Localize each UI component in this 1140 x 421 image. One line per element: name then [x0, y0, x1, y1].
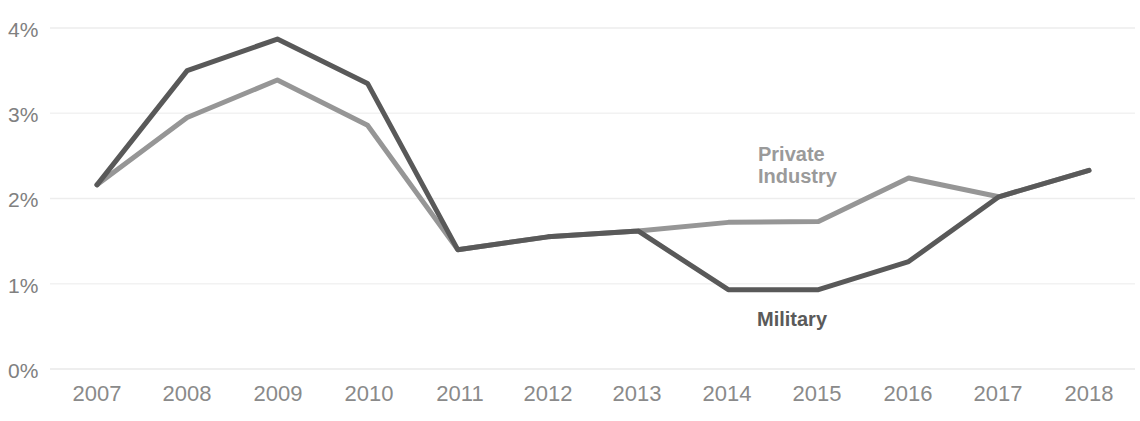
x-tick-label-2018: 2018 [1065, 383, 1114, 405]
series-line-private-industry [97, 80, 1089, 250]
y-tick-label-3pct: 3% [8, 104, 38, 125]
gridlines [50, 28, 1135, 369]
chart-plot-area [0, 0, 1140, 421]
x-tick-label-2014: 2014 [703, 383, 752, 405]
series-label-military: Military [757, 308, 827, 330]
y-tick-label-1pct: 1% [8, 275, 38, 296]
series-label-private-industry: Private Industry [758, 143, 837, 188]
x-tick-label-2016: 2016 [884, 383, 933, 405]
line-chart: 4% 3% 2% 1% 0% 2007 2008 2009 2010 2011 … [0, 0, 1140, 421]
x-tick-label-2012: 2012 [524, 383, 573, 405]
series-lines [97, 39, 1089, 290]
y-tick-label-2pct: 2% [8, 189, 38, 210]
series-line-military [97, 39, 1089, 290]
x-tick-label-2011: 2011 [436, 383, 483, 405]
x-tick-label-2010: 2010 [345, 383, 394, 405]
y-tick-label-4pct: 4% [8, 19, 38, 40]
x-tick-label-2009: 2009 [254, 383, 303, 405]
y-tick-label-0pct: 0% [8, 360, 38, 381]
x-tick-label-2007: 2007 [73, 383, 122, 405]
x-tick-label-2015: 2015 [793, 383, 842, 405]
x-tick-label-2013: 2013 [613, 383, 662, 405]
x-tick-label-2017: 2017 [974, 383, 1023, 405]
x-tick-label-2008: 2008 [163, 383, 212, 405]
